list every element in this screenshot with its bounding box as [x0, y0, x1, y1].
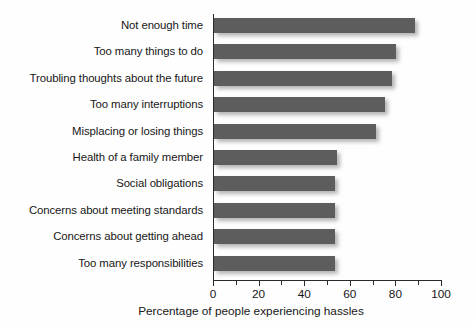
category-label: Misplacing or losing things: [72, 124, 203, 139]
bar: [214, 229, 335, 244]
plot-area: [213, 14, 441, 280]
x-tick-minor: [281, 280, 282, 285]
bar: [214, 18, 415, 33]
x-tick-minor: [418, 280, 419, 285]
x-tick-label: 60: [343, 287, 356, 301]
x-tick-major: [350, 280, 351, 286]
x-axis-title: Percentage of people experiencing hassle…: [0, 304, 474, 318]
category-label: Too many things to do: [94, 44, 203, 59]
x-tick-minor: [236, 280, 237, 285]
x-tick-label: 40: [298, 287, 311, 301]
category-label: Concerns about meeting standards: [29, 203, 203, 218]
bar: [214, 44, 396, 59]
x-tick-label: 0: [210, 287, 217, 301]
x-tick-label: 100: [431, 287, 451, 301]
category-label: Health of a family member: [73, 150, 203, 165]
category-axis-labels: Not enough timeToo many things to doTrou…: [0, 14, 208, 278]
bar: [214, 71, 392, 86]
x-tick-major: [441, 280, 442, 286]
bar-chart: Not enough timeToo many things to doTrou…: [0, 0, 474, 326]
bar: [214, 176, 335, 191]
bar: [214, 150, 337, 165]
x-tick-minor: [327, 280, 328, 285]
category-label: Not enough time: [121, 18, 203, 33]
category-label: Too many responsibilities: [78, 256, 203, 271]
category-label: Too many interruptions: [90, 97, 203, 112]
x-axis-title-text: Percentage of people experiencing hassle…: [138, 304, 364, 318]
bar: [214, 203, 335, 218]
x-tick-major: [213, 280, 214, 286]
bar: [214, 124, 376, 139]
bar: [214, 256, 335, 271]
x-tick-major: [395, 280, 396, 286]
category-label: Concerns about getting ahead: [53, 229, 203, 244]
x-tick-major: [259, 280, 260, 286]
x-tick-label: 80: [389, 287, 402, 301]
category-label: Social obligations: [116, 176, 203, 191]
bar: [214, 97, 385, 112]
x-tick-label: 20: [252, 287, 265, 301]
x-tick-minor: [373, 280, 374, 285]
category-label: Troubling thoughts about the future: [30, 71, 203, 86]
x-tick-major: [304, 280, 305, 286]
